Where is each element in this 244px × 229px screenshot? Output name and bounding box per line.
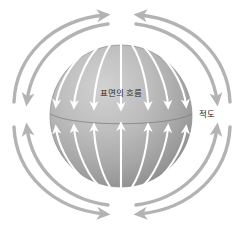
equator-label: 적도	[199, 109, 215, 119]
surface-flow-label: 표면의 흐름	[100, 88, 143, 98]
convection-diagram: 표면의 흐름 적도	[0, 0, 244, 229]
diagram-root: 표면의 흐름 적도	[0, 0, 244, 229]
